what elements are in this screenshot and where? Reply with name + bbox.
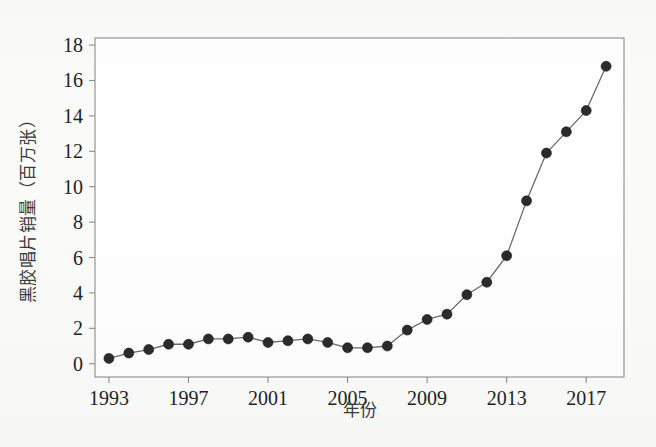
plot-frame [95, 38, 624, 377]
data-point-marker [124, 348, 134, 358]
y-tick-label: 6 [73, 247, 83, 269]
data-point-marker [362, 343, 372, 353]
y-axis-title: 黑胶唱片销量（百万张） [19, 111, 38, 304]
y-tick-label: 2 [73, 317, 83, 339]
y-tick-label: 16 [63, 69, 83, 91]
chart-svg: 024681012141618 199319972001200520092013… [0, 0, 656, 447]
y-axis-tick-labels: 024681012141618 [63, 34, 83, 375]
data-point-marker [323, 337, 333, 347]
y-tick-label: 8 [73, 211, 83, 233]
x-tick-label: 1993 [89, 387, 129, 409]
data-point-marker [402, 325, 412, 335]
x-tick-label: 2017 [566, 387, 606, 409]
y-tick-label: 18 [63, 34, 83, 56]
data-point-marker [303, 334, 313, 344]
data-point-marker [164, 339, 174, 349]
y-tick-label: 12 [63, 140, 83, 162]
data-point-marker [482, 277, 492, 287]
data-point-marker [203, 334, 213, 344]
x-axis-title: 年份 [343, 401, 378, 420]
data-point-marker [183, 339, 193, 349]
data-point-marker [561, 127, 571, 137]
data-point-marker [601, 61, 611, 71]
data-point-marker [502, 251, 512, 261]
data-point-marker [581, 106, 591, 116]
data-point-marker [462, 290, 472, 300]
x-tick-label: 2009 [407, 387, 447, 409]
y-tick-label: 14 [63, 105, 83, 127]
figure-page: 024681012141618 199319972001200520092013… [0, 0, 656, 447]
x-tick-label: 2001 [248, 387, 288, 409]
data-point-marker [104, 353, 114, 363]
vinyl-sales-line-chart: 024681012141618 199319972001200520092013… [0, 0, 656, 447]
y-tick-label: 0 [73, 353, 83, 375]
x-tick-label: 1997 [168, 387, 208, 409]
data-point-marker [144, 345, 154, 355]
data-point-marker [541, 148, 551, 158]
x-tick-label: 2013 [487, 387, 527, 409]
data-point-marker [243, 332, 253, 342]
y-axis-ticks [89, 45, 95, 364]
data-point-marker [442, 309, 452, 319]
data-point-marker [283, 336, 293, 346]
x-axis-ticks [109, 377, 586, 383]
y-tick-label: 10 [63, 176, 83, 198]
y-tick-label: 4 [73, 282, 83, 304]
data-point-marker [522, 196, 532, 206]
data-point-marker [263, 337, 273, 347]
data-point-marker [382, 341, 392, 351]
data-point-marker [343, 343, 353, 353]
data-point-marker [223, 334, 233, 344]
data-point-marker [422, 314, 432, 324]
